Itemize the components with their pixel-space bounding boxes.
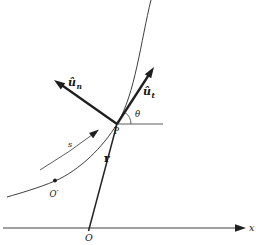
path-reference-dot: [53, 179, 57, 183]
path-reference-label: O′: [50, 189, 59, 199]
theta-label: θ: [135, 109, 140, 119]
arc-length-indicator: s: [40, 127, 101, 170]
unit-tangent-label-sub: t: [152, 91, 156, 100]
unit-normal-arrowhead: [52, 77, 65, 90]
diagram-canvas: x O r θ ûn ût: [0, 0, 256, 245]
unit-normal-label: ûn: [68, 76, 82, 91]
point-p-label: P: [114, 126, 120, 136]
unit-tangent-label-base: û: [143, 85, 151, 98]
unit-normal-vector: ûn: [52, 76, 117, 124]
arc-length-arrow-curve: [40, 132, 96, 170]
arc-length-label: s: [68, 140, 72, 149]
x-axis: x O: [3, 222, 255, 243]
unit-normal-label-sub: n: [77, 82, 82, 91]
unit-normal-vector-line: [58, 83, 117, 125]
origin-label: O: [85, 232, 93, 243]
x-axis-label: x: [249, 222, 255, 233]
arc-length-arrowhead: [89, 127, 101, 138]
position-vector-line: [89, 124, 118, 231]
theta-angle: θ: [125, 109, 140, 124]
position-vector-label: r: [104, 152, 110, 165]
unit-normal-label-base: û: [68, 76, 76, 89]
curvilinear-motion-diagram: x O r θ ûn ût: [0, 0, 256, 245]
theta-angle-arc: [125, 112, 131, 124]
path-reference-point: O′: [50, 179, 59, 199]
position-vector: r: [89, 124, 118, 231]
x-axis-arrowhead: [235, 224, 246, 232]
unit-tangent-label: ût: [143, 85, 156, 100]
